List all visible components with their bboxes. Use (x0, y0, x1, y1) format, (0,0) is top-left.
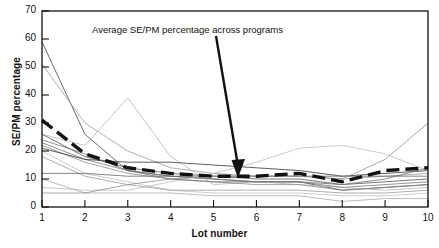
chart-annotation-label: Average SE/PM percentage across programs (92, 24, 283, 35)
plot-area (0, 0, 439, 248)
x-tick-label: 6 (245, 212, 267, 223)
y-tick-label: 20 (10, 144, 36, 155)
x-tick-label: 7 (288, 212, 310, 223)
x-tick-label: 9 (374, 212, 396, 223)
x-tick-label: 5 (203, 212, 225, 223)
x-tick-label: 8 (331, 212, 353, 223)
x-tick-label: 1 (31, 212, 53, 223)
x-axis-title: Lot number (0, 228, 439, 239)
series-layer (42, 42, 428, 202)
y-tick-label: 40 (10, 88, 36, 99)
x-tick-label: 3 (117, 212, 139, 223)
y-tick-label: 0 (10, 200, 36, 211)
y-tick-label: 10 (10, 172, 36, 183)
annotation-arrow-layer (216, 36, 245, 178)
chart-figure: SE/PM percentage Lot number Average SE/P… (0, 0, 439, 248)
annotation-arrow-shaft (216, 36, 238, 166)
x-tick-label: 10 (417, 212, 439, 223)
y-tick-label: 50 (10, 60, 36, 71)
y-tick-label: 60 (10, 32, 36, 43)
y-tick-label: 70 (10, 4, 36, 15)
y-tick-label: 30 (10, 116, 36, 127)
x-tick-label: 4 (160, 212, 182, 223)
x-tick-label: 2 (74, 212, 96, 223)
